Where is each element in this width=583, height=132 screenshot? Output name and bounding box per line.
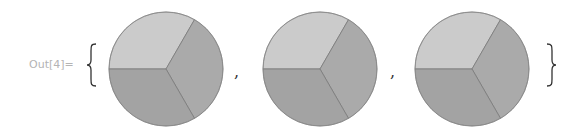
pie-chart-1 <box>108 11 224 127</box>
pie-chart-2 <box>262 11 378 127</box>
output-cell-label: Out[4]= <box>29 58 74 71</box>
list-separator-1: , <box>234 64 239 80</box>
open-brace <box>86 43 98 87</box>
pie-chart-3 <box>414 11 530 127</box>
list-separator-2: , <box>390 64 395 80</box>
close-brace <box>545 43 557 87</box>
